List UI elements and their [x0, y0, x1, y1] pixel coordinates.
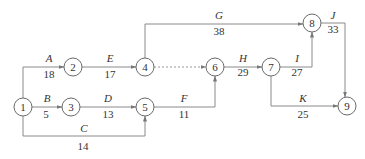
svg-text:8: 8: [309, 17, 315, 29]
network-diagram: A 18 B 5 C 14 D 13 E 17 F 11 G 38 H 29 I…: [0, 0, 365, 159]
svg-text:3: 3: [68, 101, 74, 113]
label-K-duration: 25: [298, 108, 310, 120]
label-E-name: E: [106, 52, 114, 64]
node-5: 5: [136, 98, 154, 116]
label-J-duration: 33: [328, 23, 340, 35]
node-2: 2: [64, 58, 82, 76]
label-F-duration: 11: [179, 108, 190, 120]
label-B-duration: 5: [43, 108, 49, 120]
label-H-duration: 29: [238, 66, 250, 78]
node-6: 6: [206, 58, 224, 76]
label-A-duration: 18: [44, 68, 56, 80]
svg-text:4: 4: [142, 61, 148, 73]
node-1: 1: [14, 98, 32, 116]
label-D-duration: 13: [103, 108, 115, 120]
node-8: 8: [303, 14, 321, 32]
svg-text:5: 5: [142, 101, 148, 113]
svg-text:6: 6: [212, 61, 218, 73]
node-4: 4: [136, 58, 154, 76]
node-7: 7: [262, 58, 280, 76]
label-C-name: C: [80, 122, 88, 134]
label-E-duration: 17: [105, 68, 117, 80]
label-F-name: F: [180, 92, 188, 104]
label-B-name: B: [44, 92, 51, 104]
label-G-name: G: [215, 9, 223, 21]
label-I-name: I: [294, 52, 300, 64]
label-D-name: D: [103, 92, 112, 104]
label-H-name: H: [238, 52, 248, 64]
label-K-name: K: [298, 92, 307, 104]
svg-text:9: 9: [344, 100, 350, 112]
label-I-duration: 27: [292, 66, 304, 78]
label-J-name: J: [331, 9, 337, 21]
node-3: 3: [62, 98, 80, 116]
svg-text:7: 7: [268, 61, 274, 73]
svg-text:2: 2: [70, 61, 76, 73]
label-A-name: A: [45, 52, 53, 64]
svg-text:1: 1: [20, 101, 26, 113]
label-C-duration: 14: [78, 140, 90, 152]
node-9: 9: [338, 97, 356, 115]
label-G-duration: 38: [214, 25, 226, 37]
